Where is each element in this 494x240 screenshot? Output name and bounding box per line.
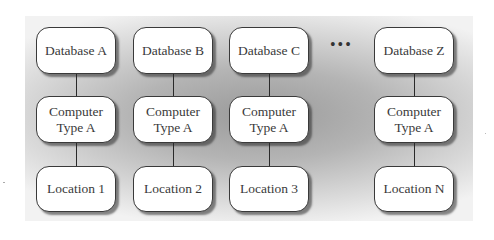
node-database-b: Database B [133, 27, 213, 74]
ellipsis-more-columns: ••• [330, 36, 353, 54]
node-label: Database B [142, 43, 204, 59]
node-location-n: Location N [374, 166, 454, 212]
node-label: Location N [383, 181, 444, 197]
node-label-line1: Computer [49, 104, 103, 119]
node-computer-a-3: ComputerType A [229, 96, 309, 143]
node-computer-a-n: ComputerType A [374, 96, 454, 143]
scan-artifact [3, 182, 5, 183]
connector-line [173, 143, 174, 166]
node-database-a: Database A [36, 27, 116, 74]
node-label: Location 3 [240, 181, 298, 197]
connector-line [173, 74, 174, 96]
node-label-line1: Computer [242, 104, 296, 119]
connector-line [76, 74, 77, 96]
connector-line [414, 143, 415, 166]
node-location-2: Location 2 [133, 166, 213, 212]
node-label: Database C [238, 43, 300, 59]
node-label: ComputerType A [146, 104, 200, 136]
connector-line [76, 143, 77, 166]
node-label-line1: Computer [387, 104, 441, 119]
node-database-z: Database Z [374, 27, 454, 74]
node-label: Database Z [383, 43, 444, 59]
node-label-line2: Type A [153, 120, 192, 135]
node-computer-a-2: ComputerType A [133, 96, 213, 143]
node-label: Database A [45, 43, 107, 59]
connector-line [269, 143, 270, 166]
node-location-1: Location 1 [36, 166, 116, 212]
node-computer-a-1: ComputerType A [36, 96, 116, 143]
node-label: Location 1 [47, 181, 105, 197]
scan-artifact [485, 133, 486, 134]
node-location-3: Location 3 [229, 166, 309, 212]
node-label: ComputerType A [49, 104, 103, 136]
node-label: ComputerType A [387, 104, 441, 136]
node-label-line2: Type A [249, 120, 288, 135]
connector-line [269, 74, 270, 96]
node-database-c: Database C [229, 27, 309, 74]
connector-line [414, 74, 415, 96]
node-label-line2: Type A [56, 120, 95, 135]
node-label-line1: Computer [146, 104, 200, 119]
node-label: Location 2 [144, 181, 202, 197]
node-label: ComputerType A [242, 104, 296, 136]
node-label-line2: Type A [394, 120, 433, 135]
